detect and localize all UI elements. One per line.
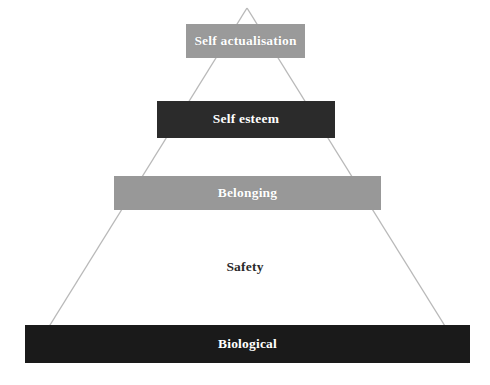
pyramid-diagram: Self actualisation Self esteem Belonging…	[0, 0, 490, 385]
tier-belonging[interactable]: Belonging	[114, 176, 381, 210]
tier-label-self-esteem: Self esteem	[213, 112, 279, 127]
tier-label-belonging: Belonging	[218, 186, 278, 201]
tier-label-safety: Safety	[226, 260, 263, 275]
tier-self-actualisation[interactable]: Self actualisation	[186, 24, 305, 58]
tier-biological[interactable]: Biological	[25, 325, 470, 363]
tier-label-biological: Biological	[218, 337, 277, 352]
tier-label-self-actualisation: Self actualisation	[194, 34, 296, 49]
tier-safety[interactable]: Safety	[70, 252, 420, 282]
tier-self-esteem[interactable]: Self esteem	[157, 101, 335, 138]
